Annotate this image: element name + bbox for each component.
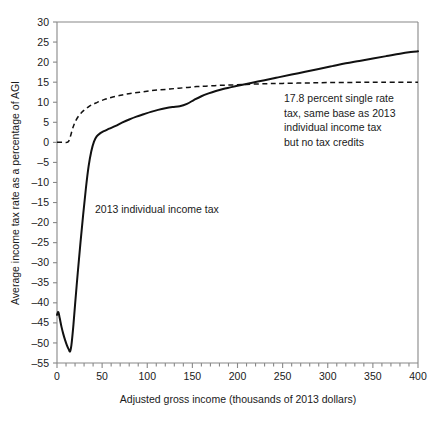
x-tick-label: 350 [364,370,382,382]
x-tick-label: 100 [138,370,156,382]
y-tick-label: –20 [31,216,49,228]
tax-rate-line-chart: –55–50–45–40–35–30–25–20–15–10–505101520… [0,0,440,425]
y-axis-ticks [53,22,57,363]
y-axis-title: Average income tax rate as a percentage … [9,81,21,305]
x-tick-label: 200 [229,370,247,382]
y-tick-label: 30 [37,16,49,28]
y-axis-tick-labels: –55–50–45–40–35–30–25–20–15–10–505101520… [31,16,49,369]
annotation-line: 17.8 percent single rate [284,92,394,104]
x-tick-label: 50 [96,370,108,382]
x-tick-label: 300 [319,370,337,382]
y-tick-label: –35 [31,276,49,288]
y-tick-label: –55 [31,357,49,369]
y-tick-label: –10 [31,176,49,188]
y-tick-label: 5 [43,116,49,128]
x-tick-label: 400 [409,370,427,382]
y-tick-label: 20 [37,56,49,68]
y-tick-label: 25 [37,36,49,48]
y-tick-label: 15 [37,76,49,88]
annotation-line: individual income tax [284,121,382,133]
x-axis-tick-labels: 050100150200250300350400 [54,370,427,382]
chart-figure: –55–50–45–40–35–30–25–20–15–10–505101520… [0,0,440,425]
y-tick-label: –50 [31,337,49,349]
y-tick-label: –5 [37,156,49,168]
x-tick-label: 250 [274,370,292,382]
x-axis-ticks [57,363,418,368]
y-tick-label: 10 [37,96,49,108]
x-tick-label: 150 [184,370,202,382]
plot-axes [57,22,418,363]
x-tick-label: 0 [54,370,60,382]
y-tick-label: –15 [31,196,49,208]
x-axis-title: Adjusted gross income (thousands of 2013… [120,393,356,405]
y-tick-label: –40 [31,296,49,308]
y-tick-label: –30 [31,256,49,268]
annotation-line: but no tax credits [284,136,364,148]
y-tick-label: 0 [43,136,49,148]
y-tick-label: –45 [31,316,49,328]
annotation-single-rate-tax: 17.8 percent single ratetax, same base a… [284,92,396,148]
annotation-individual-income-tax: 2013 individual income tax [95,203,219,215]
y-tick-label: –25 [31,236,49,248]
annotation-line: tax, same base as 2013 [284,107,396,119]
annotation-line: 2013 individual income tax [95,203,219,215]
